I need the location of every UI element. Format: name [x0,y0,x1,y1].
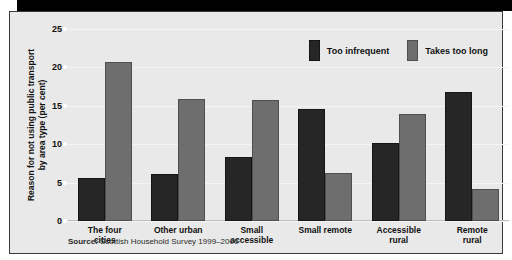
bar-group [436,29,510,221]
y-axis-title: Reason for not using public transport by… [24,29,50,221]
y-tick-marker [63,181,67,185]
plot-area: 0510152025 [68,29,509,221]
top-black-band [17,0,512,11]
y-tick-label: 15 [32,101,62,111]
bar [325,173,352,221]
bar [252,100,279,221]
bar [399,114,426,221]
bar [445,92,472,221]
y-tick-marker [63,104,67,108]
bar [78,178,105,221]
chart-screenshot: Reason for not using public transport by… [0,0,512,260]
figure-frame: Reason for not using public transport by… [9,11,503,254]
y-tick-label: 0 [32,216,62,226]
y-tick-marker [63,219,67,223]
bar-group [215,29,289,221]
bar-group [68,29,142,221]
bar-groups [68,29,509,221]
bar-group [289,29,363,221]
gridline [68,221,509,222]
x-axis-label: Remoterural [436,225,510,245]
y-tick-label: 5 [32,178,62,188]
bar-group [362,29,436,221]
bar [472,189,499,221]
source-note: Source: Scottish Household Survey 1999–2… [68,237,238,246]
source-prefix: Source: [68,237,98,246]
y-axis-title-line2: by area type (per cent) [37,80,47,171]
bar [298,109,325,221]
y-tick-label: 20 [32,62,62,72]
bar [151,174,178,221]
top-band-gap [0,0,17,11]
bar [372,143,399,221]
x-axis-label: Accessiblerural [362,225,436,245]
y-tick-label: 25 [32,24,62,34]
bar-group [142,29,216,221]
y-tick-marker [63,27,67,31]
y-tick-label: 10 [32,139,62,149]
bar [178,99,205,221]
bar [105,62,132,221]
bar [225,157,252,222]
x-axis-label: Small remote [289,225,363,245]
source-text: Scottish Household Survey 1999–2000 [100,237,238,246]
y-tick-marker [63,65,67,69]
y-tick-marker [63,142,67,146]
